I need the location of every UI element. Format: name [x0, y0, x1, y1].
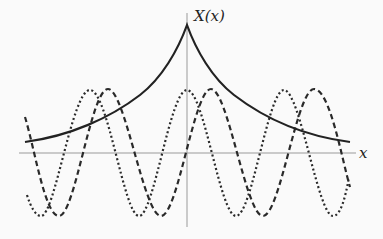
wavefunction-plot: [0, 0, 383, 239]
y-axis-label: X(x): [194, 9, 225, 24]
x-axis-label: x: [359, 146, 367, 161]
